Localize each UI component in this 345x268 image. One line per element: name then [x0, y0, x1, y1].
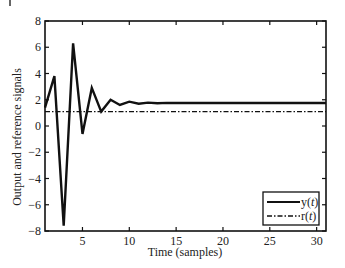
legend-label-r: r(t) [301, 209, 316, 223]
line-chart: 51015202530−8−6−4−202468 Time (samples) … [0, 0, 345, 268]
x-axis-label: Time (samples) [148, 245, 223, 259]
y-tick-label: 0 [35, 119, 41, 133]
y-tick-label: −2 [28, 145, 41, 159]
y-tick-label: 4 [35, 67, 41, 81]
y-tick-label: 2 [35, 93, 41, 107]
y-tick-label: 6 [35, 40, 41, 54]
y-tick-label: −4 [28, 172, 41, 186]
x-tick-label: 25 [264, 234, 276, 248]
y-tick-label: −6 [28, 198, 41, 212]
legend: y(t) r(t) [263, 192, 319, 225]
y-tick-label: 8 [35, 14, 41, 28]
y-tick-label: −8 [28, 224, 41, 238]
y-axis-label: Output and reference signals [10, 68, 24, 206]
legend-label-y: y(t) [301, 195, 318, 209]
x-tick-label: 30 [311, 234, 323, 248]
x-tick-label: 5 [79, 234, 85, 248]
x-tick-label: 10 [123, 234, 135, 248]
